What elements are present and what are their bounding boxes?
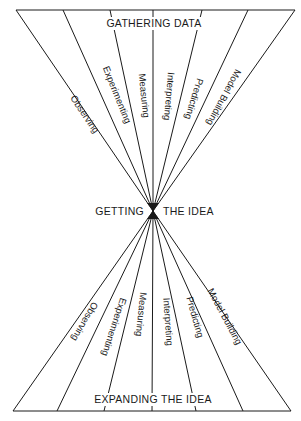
bottom-fan (13, 211, 291, 411)
top-label-model-building: Model Building (205, 68, 244, 128)
bottom-label-interpreting: Interpreting (161, 297, 175, 346)
top-label-predicting: Predicting (183, 77, 206, 121)
center-right-text: THE IDEA (163, 205, 214, 217)
bottom-ray (13, 211, 153, 411)
center-left-text: GETTING (95, 205, 144, 217)
bottom-label-predicting: Predicting (184, 295, 206, 339)
top-fan (16, 10, 295, 211)
top-label-experimenting: Experimenting (101, 64, 134, 124)
top-label-interpreting: Interpreting (162, 72, 177, 121)
bottom-heading: EXPANDING THE IDEA (94, 393, 212, 405)
bottom-label-observing: Observing (69, 300, 100, 343)
top-label-observing: Observing (68, 93, 101, 135)
bottom-label-measuring: Measuring (134, 292, 150, 337)
top-heading: GATHERING DATA (106, 17, 201, 29)
hourglass-diagram: GATHERING DATA GETTING THE IDEA EXPANDIN… (0, 0, 301, 421)
bottom-ray (152, 211, 153, 411)
top-label-measuring: Measuring (137, 73, 153, 118)
bottom-label-model-building: Model Building (206, 286, 245, 346)
